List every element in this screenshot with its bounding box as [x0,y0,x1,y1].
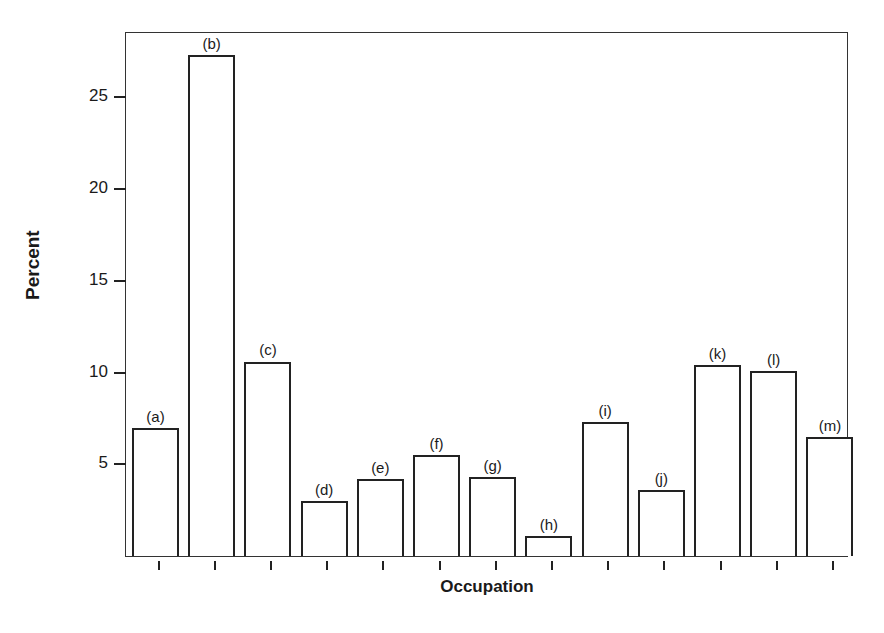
x-axis-label: Occupation [0,577,884,597]
bar [357,479,404,556]
x-tick [495,561,497,570]
x-tick [382,561,384,570]
y-tick [114,188,126,190]
bar [188,55,235,556]
plot-area: (a)(b)(c)(d)(e)(f)(g)(h)(i)(j)(k)(l)(m)5… [125,32,848,557]
bar [469,477,516,556]
bar-label: (i) [575,402,635,419]
bar-label: (g) [463,457,523,474]
y-tick-label: 10 [68,362,108,382]
x-tick [214,561,216,570]
y-tick-label: 20 [68,178,108,198]
x-tick [326,561,328,570]
x-tick [720,561,722,570]
x-tick [270,561,272,570]
y-axis-label: Percent [22,230,44,300]
bar [413,455,460,556]
x-tick [439,561,441,570]
x-tick [158,561,160,570]
x-tick [551,561,553,570]
y-tick-label: 15 [68,270,108,290]
bar-label: (e) [350,459,410,476]
bar-label: (a) [126,408,186,425]
y-tick [114,96,126,98]
bar-label: (d) [294,481,354,498]
bar [301,501,348,556]
bar [638,490,685,556]
x-tick [607,561,609,570]
x-tick [663,561,665,570]
y-tick [114,280,126,282]
y-tick [114,463,126,465]
bar-label: (j) [631,470,691,487]
y-tick-label: 5 [68,453,108,473]
bar [694,365,741,556]
bar-label: (k) [688,345,748,362]
bar-label: (c) [238,341,298,358]
bar [806,437,853,556]
y-tick-label: 25 [68,86,108,106]
bar-label: (l) [744,351,804,368]
bar [750,371,797,556]
bar-label: (f) [407,435,467,452]
x-tick [776,561,778,570]
bar [244,362,291,557]
y-tick [114,372,126,374]
bar [132,428,179,556]
bar-label: (b) [182,35,242,52]
bar-label: (h) [519,516,579,533]
bar [525,536,572,556]
bar-label: (m) [800,417,860,434]
bar [582,422,629,556]
x-tick [832,561,834,570]
